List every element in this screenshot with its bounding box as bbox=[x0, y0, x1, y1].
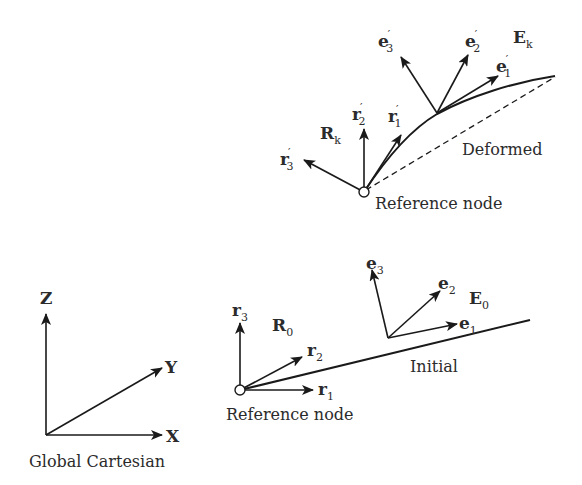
e3-label: e3 bbox=[366, 253, 384, 277]
E0-label: E0 bbox=[469, 288, 489, 312]
e3-arrow bbox=[372, 270, 388, 338]
undeformed-chord-dashed bbox=[366, 77, 555, 190]
r1-prime-label: r′1 bbox=[388, 103, 401, 130]
r1-label: r1 bbox=[318, 379, 334, 403]
r3-prime-arrow bbox=[304, 160, 364, 192]
e3-prime-label: e′3 bbox=[378, 28, 393, 55]
reference-node-deformed bbox=[359, 187, 369, 197]
reference-node-caption-initial: Reference node bbox=[226, 405, 354, 424]
r3-label: r3 bbox=[232, 300, 248, 324]
r2-prime-label: r′2 bbox=[352, 101, 365, 128]
e1-label: e1 bbox=[459, 313, 477, 337]
reference-node-caption-deformed: Reference node bbox=[375, 194, 503, 213]
e3-prime-arrow bbox=[401, 57, 437, 113]
deformed-caption: Deformed bbox=[462, 140, 542, 159]
y-axis-label: Y bbox=[164, 357, 178, 377]
z-axis-label: Z bbox=[40, 288, 52, 308]
global-cartesian-frame: Z Y X Global Cartesian bbox=[29, 288, 180, 471]
e1-arrow bbox=[388, 324, 457, 338]
initial-configuration: r3 R0 r2 r1 e3 e2 E0 e1 Initial Referenc… bbox=[226, 253, 530, 424]
e2-label: e2 bbox=[438, 273, 456, 297]
e2-arrow bbox=[388, 291, 440, 338]
Ek-label: Ek bbox=[513, 27, 533, 51]
global-cartesian-caption: Global Cartesian bbox=[29, 452, 165, 471]
y-axis-arrow bbox=[46, 368, 162, 435]
r1-prime-arrow bbox=[364, 135, 401, 192]
e1-prime-label: e′1 bbox=[496, 53, 511, 80]
Rk-label: Rk bbox=[320, 123, 341, 147]
deformed-configuration: r′3 Rk r′2 r′1 e′3 e′2 Ek e′1 Deformed R… bbox=[280, 27, 555, 213]
initial-caption: Initial bbox=[410, 357, 458, 376]
R0-label: R0 bbox=[272, 315, 293, 339]
x-axis-label: X bbox=[166, 426, 180, 446]
r2-arrow bbox=[240, 357, 302, 390]
e2-prime-label: e′2 bbox=[465, 28, 480, 55]
r3-prime-label: r′3 bbox=[280, 146, 293, 173]
reference-node-initial bbox=[235, 385, 245, 395]
beam-frames-diagram: Z Y X Global Cartesian r3 R0 r2 r1 e3 e2… bbox=[0, 0, 582, 485]
r2-label: r2 bbox=[307, 340, 323, 364]
